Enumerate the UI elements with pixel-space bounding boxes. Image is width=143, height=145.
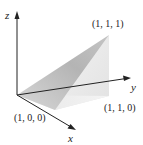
x-axis-label: x xyxy=(67,132,73,144)
x-arrow-icon xyxy=(68,124,77,130)
z-axis-label: z xyxy=(4,9,10,21)
point-label-110: (1, 1, 0) xyxy=(104,102,136,114)
tetrahedron-diagram: z y x (1, 1, 1) (1, 1, 0) (1, 0, 0) xyxy=(0,0,143,145)
y-axis-label: y xyxy=(130,81,136,93)
point-label-111: (1, 1, 1) xyxy=(92,18,124,30)
y-arrow-icon xyxy=(123,76,131,82)
z-arrow-icon xyxy=(15,11,20,19)
point-label-100: (1, 0, 0) xyxy=(14,112,46,124)
